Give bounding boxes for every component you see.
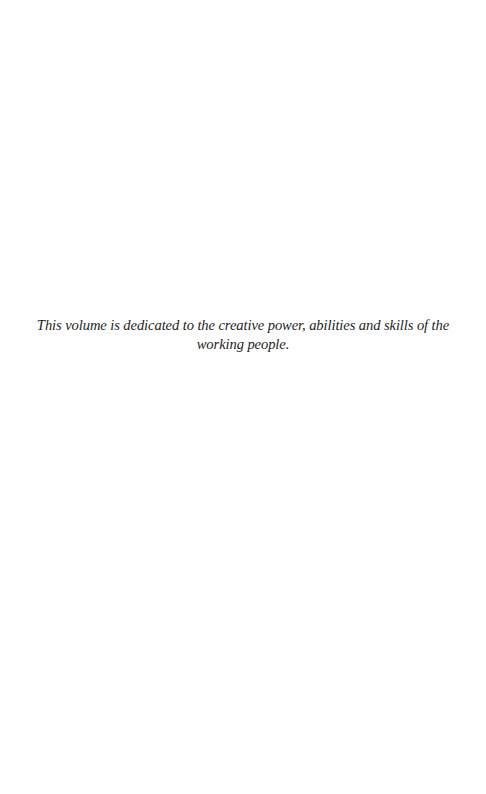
- book-page: This volume is dedicated to the creative…: [0, 0, 486, 794]
- dedication-text: This volume is dedicated to the creative…: [0, 316, 486, 354]
- dedication-line-2: working people.: [0, 335, 486, 354]
- dedication-line-1: This volume is dedicated to the creative…: [0, 316, 486, 335]
